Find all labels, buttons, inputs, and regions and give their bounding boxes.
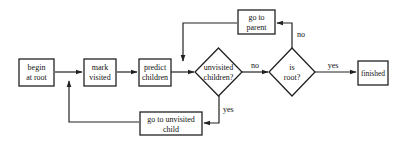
label-isroot-no: no xyxy=(297,30,305,39)
node-label-line2: at root xyxy=(26,73,47,82)
node-label-line1: go to unvisited xyxy=(147,115,195,124)
flowchart-diagram: no yes yes no begin at root mark visited… xyxy=(0,0,407,143)
edge-child-to-mark xyxy=(69,81,139,122)
node-predict-children: predict children xyxy=(139,59,171,86)
decision-diamond xyxy=(195,48,242,96)
label-unvisited-yes: yes xyxy=(223,105,234,114)
node-label-line1: is xyxy=(289,63,294,72)
node-label-line1: finished xyxy=(361,69,385,78)
edge-unvisited-to-child-yes xyxy=(204,96,219,123)
node-label-line1: unvisited xyxy=(204,63,233,72)
node-label-line2: visited xyxy=(89,73,110,82)
node-label-line2: root? xyxy=(284,73,301,82)
node-label-line2: child xyxy=(163,125,179,134)
decision-diamond xyxy=(269,48,315,96)
node-is-root-decision: is root? xyxy=(269,48,315,96)
node-label-line1: go to xyxy=(248,13,264,22)
node-unvisited-children-decision: unvisited children? xyxy=(195,48,242,96)
node-go-to-unvisited-child: go to unvisited child xyxy=(140,112,202,135)
node-mark-visited: mark visited xyxy=(84,59,116,86)
label-unvisited-no: no xyxy=(251,61,259,70)
node-go-to-parent: go to parent xyxy=(238,10,275,34)
node-label-line1: begin xyxy=(28,63,46,72)
node-label-line2: children? xyxy=(204,73,234,82)
node-finished: finished xyxy=(358,61,388,85)
label-isroot-yes: yes xyxy=(328,61,339,70)
edge-isroot-to-parent-no xyxy=(277,23,292,48)
edge-parent-to-unvisited xyxy=(183,23,237,61)
node-label-line1: predict xyxy=(144,63,167,72)
node-begin-at-root: begin at root xyxy=(19,59,54,86)
node-label-line2: parent xyxy=(247,23,268,32)
node-label-line2: children xyxy=(142,73,168,82)
node-label-line1: mark xyxy=(92,63,108,72)
